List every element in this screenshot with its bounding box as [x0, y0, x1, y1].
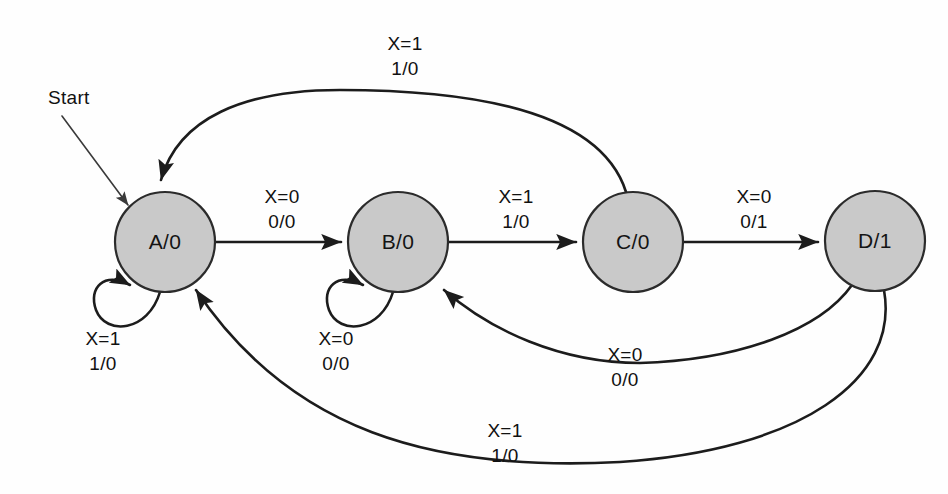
transition-label-b-to-c-output: 1/0	[502, 211, 529, 232]
transition-label-a-to-b-output: 0/0	[268, 211, 295, 232]
transition-label-d-to-a-output: 1/0	[491, 445, 518, 466]
transition-label-c-to-a-output: 1/0	[391, 58, 418, 79]
transition-d-to-b-path	[444, 285, 852, 363]
state-label-c: C/0	[616, 230, 650, 253]
transition-label-a-to-b-input: X=0	[264, 186, 299, 207]
start-label: Start	[48, 87, 90, 108]
transition-label-c-to-d-input: X=0	[736, 186, 771, 207]
transition-label-a-self-input: X=1	[85, 328, 120, 349]
transition-label-d-to-b-output: 0/0	[611, 369, 638, 390]
state-label-a: A/0	[149, 230, 182, 253]
start-arrow-path	[62, 116, 128, 205]
transition-label-d-to-b-input: X=0	[607, 344, 642, 365]
transition-label-b-self-input: X=0	[318, 328, 353, 349]
state-diagram: A/0 B/0 C/0 D/1 X=0 0/0 X=1 1/0 X=0 0/1 …	[0, 0, 948, 494]
state-label-b: B/0	[382, 230, 415, 253]
transition-label-c-to-a-input: X=1	[387, 33, 422, 54]
transition-label-b-to-c-input: X=1	[498, 186, 533, 207]
transition-d-to-a-path	[196, 290, 886, 463]
transition-label-a-self-output: 1/0	[89, 353, 116, 374]
state-diagram-canvas: A/0 B/0 C/0 D/1 X=0 0/0 X=1 1/0 X=0 0/1 …	[0, 0, 948, 494]
transition-c-to-a-path	[161, 90, 626, 192]
transition-label-d-to-a-input: X=1	[487, 420, 522, 441]
transition-label-c-to-d-output: 0/1	[740, 211, 767, 232]
state-label-d: D/1	[858, 229, 892, 252]
transition-label-b-self-output: 0/0	[322, 353, 349, 374]
